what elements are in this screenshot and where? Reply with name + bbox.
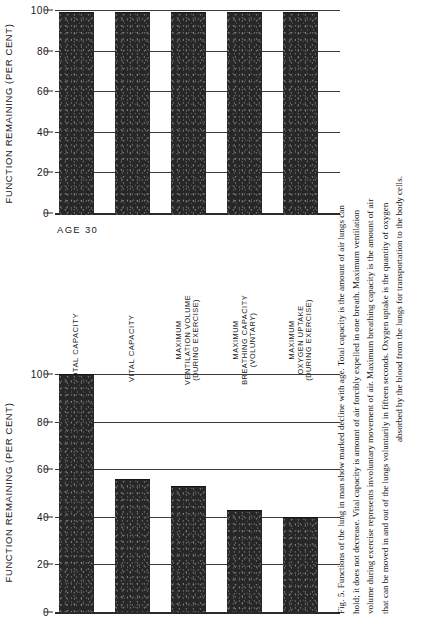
category-label-max-breathing-capacity: MAXIMUMBREATHING CAPACITY(VOLUNTARY) (227, 243, 262, 353)
plot-area-bottom: 100 80 60 40 20 0 (55, 370, 340, 612)
ytick-40-top: 40 (37, 126, 55, 137)
gridline-100-bottom (55, 374, 340, 375)
ytick-60-top: 60 (37, 86, 55, 97)
caption-line-2: hold; it does not decrease. Vital capaci… (349, 4, 364, 614)
age-30-label: AGE 30 (57, 224, 98, 235)
ytick-80-top: 80 (37, 45, 55, 56)
category-label-vital-capacity: VITAL CAPACITY (115, 243, 150, 353)
gridline-80-bottom (55, 422, 340, 423)
ytick-40-bottom: 40 (37, 511, 55, 522)
bar-max-ventilation-older (171, 486, 206, 612)
bar-total-capacity-older (59, 374, 94, 612)
bar-total-capacity-age30 (59, 12, 94, 215)
caption-line-4: that can be moved in and out of the lung… (378, 4, 393, 614)
bar-max-ventilation-age30 (171, 12, 206, 215)
chart-age-older: FUNCTION REMAINING (PER CENT) 100 80 60 … (0, 370, 340, 614)
caption-line-3: volume during exercise represents involu… (363, 4, 378, 614)
gridline-100-top (55, 10, 340, 11)
ytick-20-top: 20 (37, 167, 55, 178)
caption-line-5: absorbed by the blood from the lungs for… (392, 4, 407, 614)
gridline-60-bottom (55, 469, 340, 470)
axis-baseline-bottom (55, 612, 340, 614)
ytick-100-bottom: 100 (31, 369, 55, 380)
ytick-100-top: 100 (31, 5, 55, 16)
category-label-max-ventilation-volume: MAXIMUMVENTILATION VOLUME(DURING EXERCIS… (171, 243, 206, 353)
y-axis-label-top: FUNCTION REMAINING (PER CENT) (0, 4, 20, 222)
chart-age-30: FUNCTION REMAINING (PER CENT) 100 80 60 … (0, 4, 340, 222)
bar-max-breathing-age30 (227, 12, 262, 215)
category-label-max-oxygen-uptake: MAXIMUMOXYGEN UPTAKE(DURING EXERCISE) (283, 243, 318, 353)
bar-vital-capacity-older (115, 479, 150, 612)
bar-max-breathing-older (227, 510, 262, 612)
ytick-0-top: 0 (43, 208, 55, 219)
bar-max-oxygen-uptake-age30 (283, 12, 318, 215)
ytick-0-bottom: 0 (43, 607, 55, 618)
caption-line-1: Fig. 5. Functions of the lung in man sho… (334, 4, 349, 614)
ytick-80-bottom: 80 (37, 416, 55, 427)
bar-vital-capacity-age30 (115, 12, 150, 215)
bar-max-oxygen-uptake-older (283, 517, 318, 612)
ytick-60-bottom: 60 (37, 464, 55, 475)
y-axis-label-bottom: FUNCTION REMAINING (PER CENT) (0, 370, 20, 614)
ytick-20-bottom: 20 (37, 559, 55, 570)
figure-caption: Fig. 5. Functions of the lung in man sho… (332, 0, 424, 614)
category-label-total-capacity: TOTAL CAPACITY (59, 243, 94, 353)
plot-area-top: 100 80 60 40 20 0 (55, 10, 340, 215)
